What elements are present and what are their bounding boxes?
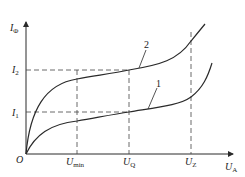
diagram-canvas: 2 1 IΦ I2 I1 O Umin UQ UZ UA (0, 0, 245, 177)
umin-label: Umin (66, 156, 85, 169)
i1-label: I1 (11, 107, 19, 120)
origin-label: O (16, 154, 23, 165)
curve-1-leader (148, 88, 157, 109)
uq-label: UQ (123, 156, 135, 169)
uz-label: UZ (185, 156, 197, 169)
curve-1 (26, 63, 212, 154)
y-axis-label: IΦ (9, 22, 18, 35)
guide-lines (26, 32, 191, 154)
curve-2 (26, 24, 205, 154)
x-axis-label: UA (225, 161, 237, 174)
curve-2-label: 2 (144, 39, 149, 50)
curve-2-leader (139, 50, 146, 68)
i2-label: I2 (11, 64, 19, 77)
curve-1-label: 1 (156, 78, 161, 89)
